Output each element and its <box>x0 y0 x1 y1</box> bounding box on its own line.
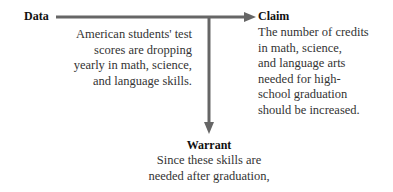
warrant-text: Since these skills are needed after grad… <box>134 153 284 184</box>
data-label: Data <box>24 9 49 24</box>
arrowhead-down-icon <box>204 122 214 134</box>
claim-text: The number of credits in math, science, … <box>258 25 388 118</box>
claim-label: Claim <box>258 9 289 24</box>
arrowhead-right-icon <box>244 12 256 22</box>
warrant-label: Warrant <box>159 138 259 153</box>
data-text: American students' test scores are dropp… <box>52 27 192 89</box>
